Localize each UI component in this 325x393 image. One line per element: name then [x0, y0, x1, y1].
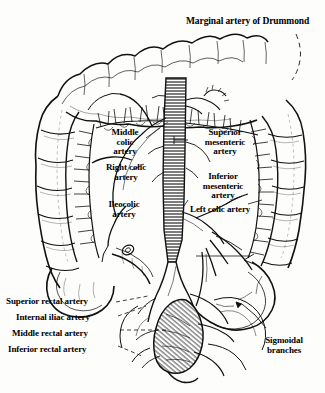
label-superior-rectal-artery: Superior rectal artery	[6, 297, 88, 307]
anatomical-figure: Marginal artery of Drummond Middle colic…	[0, 0, 325, 393]
label-sigmoidal-branches: Sigmoidal branches	[253, 336, 315, 355]
label-inferior-rectal-artery: Inferior rectal artery	[8, 345, 86, 355]
label-right-colic-artery: Right colic artery	[96, 163, 156, 182]
label-middle-colic-artery: Middle colic artery	[101, 128, 149, 157]
label-left-colic-artery: Left colic artery	[190, 205, 250, 215]
label-inferior-mesenteric-artery: Inferior mesenteric artery	[188, 172, 258, 201]
label-internal-iliac-artery: Internal iliac artery	[16, 313, 90, 323]
label-superior-mesenteric-artery: Superior mesenteric artery	[190, 128, 260, 157]
label-middle-rectal-artery: Middle rectal artery	[12, 329, 88, 339]
label-marginal-artery-of-drummond: Marginal artery of Drummond	[186, 16, 309, 26]
label-ileocolic-artery: Ileocolic artery	[98, 200, 150, 219]
